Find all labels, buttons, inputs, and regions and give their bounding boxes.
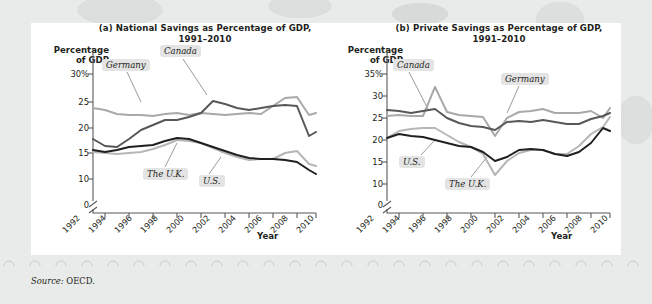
chart-a-leader-the-uk bbox=[165, 143, 177, 167]
chart-a-y-tickmarks bbox=[88, 74, 93, 179]
source-label: Source: bbox=[31, 276, 64, 286]
chart-b-leader-us bbox=[421, 140, 435, 155]
chart-a-series-germany bbox=[93, 97, 316, 116]
chart-a-x-tickmarks bbox=[105, 213, 316, 218]
source-value: OECD. bbox=[66, 276, 94, 286]
chart-a-plot bbox=[31, 23, 331, 253]
chart-b-series-the-uk bbox=[387, 128, 610, 161]
scallop-divider bbox=[0, 258, 652, 270]
figure-panel: (a) National Savings as Percentage of GD… bbox=[31, 23, 621, 255]
chart-b-plot bbox=[325, 23, 625, 253]
chart-a-leader-us bbox=[209, 157, 221, 174]
source-note: Source: OECD. bbox=[31, 276, 95, 286]
chart-a-series-the-uk bbox=[93, 138, 316, 174]
chart-b-leader-canada bbox=[409, 72, 429, 111]
chart-b-leader-the-uk bbox=[471, 157, 487, 177]
chart-a-leader-germany bbox=[127, 72, 141, 102]
chart-a-series-canada bbox=[93, 101, 316, 147]
chart-b-x-tickmarks bbox=[399, 213, 610, 218]
chart-b-series-us bbox=[387, 117, 610, 175]
chart-a-leader-canada bbox=[183, 59, 207, 95]
chart-b-y-tickmarks bbox=[382, 74, 387, 184]
chart-b-leader-germany bbox=[507, 86, 519, 113]
